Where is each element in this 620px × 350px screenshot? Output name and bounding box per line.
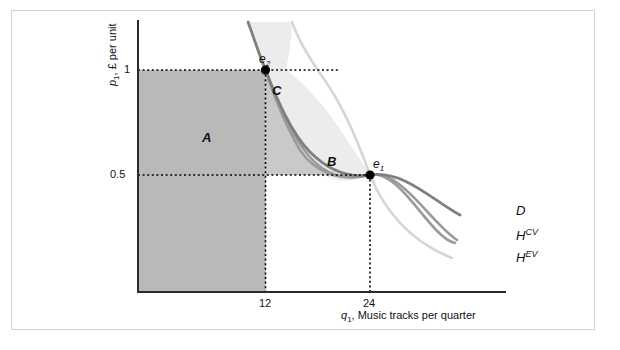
curve-label-d: D <box>516 203 525 218</box>
point-label-e2: e2 <box>259 52 270 68</box>
curve-label-h-cv-sup: CV <box>525 227 538 237</box>
x-tick-label-12: 12 <box>259 297 271 309</box>
curve-label-h-ev-sup: EV <box>525 249 537 259</box>
y-axis-label: p1, £ per unit <box>106 23 121 86</box>
curve-label-h-cv-base: H <box>516 228 525 243</box>
region-label-b: B <box>327 154 336 169</box>
curve-label-h-ev: HEV <box>516 249 537 265</box>
region-label-a: A <box>202 130 211 145</box>
point-label-e1-sub: 1 <box>380 164 384 173</box>
x-axis-label-rest: , Music tracks per quarter <box>352 309 476 321</box>
point-label-e1-base: e <box>373 157 380 171</box>
curve-label-h-ev-base: H <box>516 250 525 265</box>
y-axis-label-var: p <box>106 80 118 86</box>
point-label-e1: e1 <box>373 157 384 173</box>
y-axis-label-rest: , £ per unit <box>106 23 118 75</box>
figure-root: p1, £ per unit q1, Music tracks per quar… <box>0 0 620 350</box>
region-a-lower-band <box>138 175 266 292</box>
curve-label-h-cv: HCV <box>516 227 538 243</box>
x-tick-label-24: 24 <box>363 297 375 309</box>
point-label-e2-base: e <box>259 52 266 66</box>
y-axis-label-sub: 1 <box>112 75 121 79</box>
y-tick-label-1: 1 <box>124 63 130 75</box>
region-label-c: C <box>272 83 281 98</box>
point-label-e2-sub: 2 <box>266 59 270 68</box>
x-axis-label: q1, Music tracks per quarter <box>341 309 476 324</box>
curve-label-d-base: D <box>516 203 525 218</box>
chart-plot-area <box>0 0 620 350</box>
y-tick-label-0-5: 0.5 <box>110 168 125 180</box>
